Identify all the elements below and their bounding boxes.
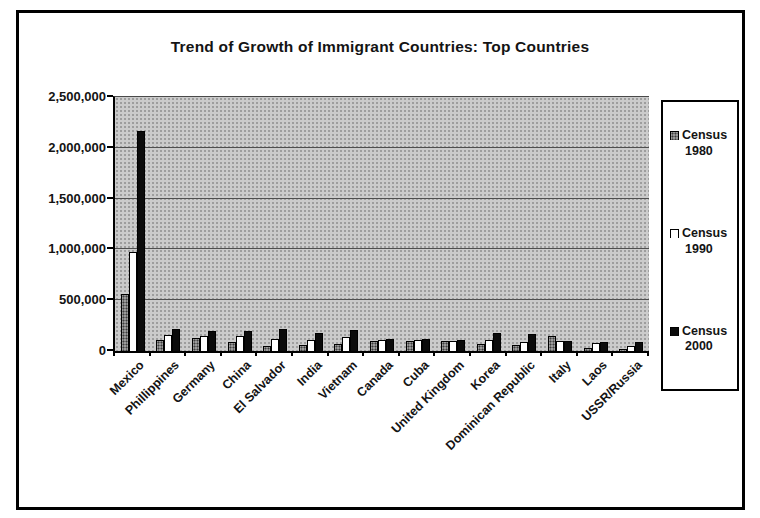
x-tick <box>362 351 364 356</box>
bar-india-census-2000 <box>315 333 323 351</box>
bar-ussr-russia-census-2000 <box>635 342 643 351</box>
x-tick <box>647 351 649 356</box>
legend-label: Census 1990 <box>682 226 727 256</box>
bar-dominican-republic-census-1990 <box>520 342 528 351</box>
bar-india-census-1990 <box>307 340 315 351</box>
legend-entry-census-1990: Census 1990 <box>670 226 733 257</box>
bar-group-dominican-republic <box>507 97 543 351</box>
bar-group-ussr-russia <box>613 97 649 351</box>
bar-phillippines-census-1980 <box>156 340 164 351</box>
x-tick <box>398 351 400 356</box>
bar-group-canada <box>364 97 400 351</box>
bar-group-cuba <box>400 97 436 351</box>
bar-canada-census-1980 <box>370 341 378 351</box>
bar-group-mexico <box>115 97 151 351</box>
bar-group-phillippines <box>151 97 187 351</box>
bar-group-korea <box>471 97 507 351</box>
y-tick <box>107 95 113 97</box>
legend-marker-census-2000-icon <box>670 327 679 336</box>
page-background: { "chart_data": { "type": "bar", "title"… <box>0 0 760 518</box>
bar-group-germany <box>186 97 222 351</box>
legend-marker-census-1990-icon <box>670 229 679 238</box>
y-axis-label-1-500-000: 1,500,000 <box>20 191 106 206</box>
plot-area <box>113 96 649 353</box>
bar-vietnam-census-1980 <box>334 344 342 351</box>
x-tick <box>611 351 613 356</box>
bar-china-census-1980 <box>228 342 236 351</box>
bar-china-census-1990 <box>236 336 244 351</box>
bar-group-vietnam <box>329 97 365 351</box>
x-tick <box>540 351 542 356</box>
bar-el-salvador-census-1990 <box>271 339 279 351</box>
legend-marker-census-1980-icon <box>670 131 679 140</box>
x-tick <box>149 351 151 356</box>
bar-phillippines-census-1990 <box>164 335 172 351</box>
bar-group-china <box>222 97 258 351</box>
y-tick <box>107 298 113 300</box>
bar-italy-census-1980 <box>548 336 556 351</box>
legend: Census 1980Census 1990Census 2000 <box>661 100 739 391</box>
legend-entry-census-1980: Census 1980 <box>670 128 733 159</box>
legend-entry-census-2000: Census 2000 <box>670 324 733 355</box>
bar-italy-census-2000 <box>564 341 572 351</box>
bar-united-kingdom-census-1990 <box>449 341 457 351</box>
bar-el-salvador-census-2000 <box>279 329 287 351</box>
y-axis-label-500-000: 500,000 <box>20 292 106 307</box>
x-tick <box>184 351 186 356</box>
y-axis-label-2-500-000: 2,500,000 <box>20 89 106 104</box>
bar-germany-census-1990 <box>200 336 208 351</box>
bar-united-kingdom-census-1980 <box>441 341 449 351</box>
x-tick <box>505 351 507 356</box>
x-tick <box>469 351 471 356</box>
bar-group-united-kingdom <box>435 97 471 351</box>
bar-germany-census-2000 <box>208 331 216 351</box>
bar-cuba-census-2000 <box>422 339 430 351</box>
x-tick <box>576 351 578 356</box>
bar-dominican-republic-census-2000 <box>528 334 536 351</box>
bar-china-census-2000 <box>244 331 252 351</box>
bar-phillippines-census-2000 <box>172 329 180 351</box>
x-tick <box>255 351 257 356</box>
bar-germany-census-1980 <box>192 338 200 351</box>
y-tick <box>107 146 113 148</box>
legend-label: Census 1980 <box>682 128 727 158</box>
bar-cuba-census-1980 <box>406 341 414 351</box>
bar-mexico-census-2000 <box>137 131 145 351</box>
x-tick <box>433 351 435 356</box>
bar-laos-census-2000 <box>600 342 608 351</box>
bar-group-italy <box>542 97 578 351</box>
bar-mexico-census-1980 <box>121 294 129 351</box>
bar-group-el-salvador <box>257 97 293 351</box>
y-axis-label-0: 0 <box>20 343 106 358</box>
bar-italy-census-1990 <box>556 341 564 351</box>
bar-vietnam-census-1990 <box>342 337 350 351</box>
x-tick <box>220 351 222 356</box>
bar-vietnam-census-2000 <box>350 330 358 351</box>
y-tick <box>107 197 113 199</box>
x-tick <box>327 351 329 356</box>
bar-korea-census-1990 <box>485 340 493 351</box>
chart-title: Trend of Growth of Immigrant Countries: … <box>95 38 665 56</box>
x-tick <box>291 351 293 356</box>
y-axis-labels: 0500,0001,000,0001,500,0002,000,0002,500… <box>20 96 106 350</box>
bar-canada-census-2000 <box>386 339 394 351</box>
bar-cuba-census-1990 <box>414 340 422 351</box>
bar-group-laos <box>578 97 614 351</box>
bar-korea-census-2000 <box>493 333 501 351</box>
y-axis-label-1-000-000: 1,000,000 <box>20 241 106 256</box>
bar-korea-census-1980 <box>477 344 485 351</box>
x-tick <box>113 351 115 356</box>
legend-label: Census 2000 <box>682 324 727 354</box>
bar-united-kingdom-census-2000 <box>457 340 465 351</box>
bar-mexico-census-1990 <box>129 252 137 351</box>
bar-canada-census-1990 <box>378 340 386 351</box>
bar-group-india <box>293 97 329 351</box>
bar-laos-census-1990 <box>592 343 600 351</box>
y-axis-label-2-000-000: 2,000,000 <box>20 140 106 155</box>
y-tick <box>107 247 113 249</box>
x-axis-ticks <box>113 351 649 357</box>
